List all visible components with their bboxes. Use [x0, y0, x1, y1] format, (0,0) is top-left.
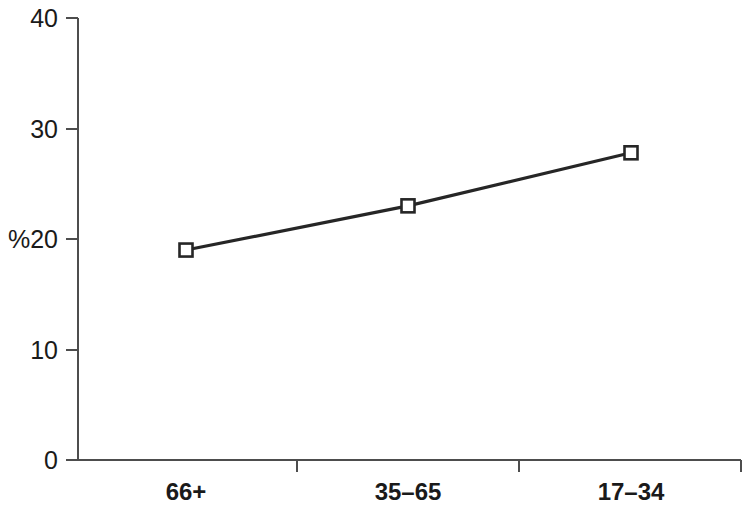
- data-point-marker: [402, 199, 415, 212]
- x-category-label-1: 35–65: [375, 478, 442, 505]
- y-tick-label-30: 30: [30, 115, 58, 143]
- data-point-marker: [180, 244, 193, 257]
- line-chart: 40 30 20 10 0 % 66+ 35–65 17–34: [0, 0, 753, 516]
- y-tick-label-20: 20: [30, 225, 58, 253]
- data-point-marker: [625, 146, 638, 159]
- y-tick-label-40: 40: [30, 4, 58, 32]
- chart-canvas: 40 30 20 10 0 % 66+ 35–65 17–34: [0, 0, 753, 516]
- y-axis-title: %: [8, 225, 30, 253]
- y-tick-label-0: 0: [44, 446, 58, 474]
- x-category-label-0: 66+: [166, 478, 207, 505]
- y-tick-label-10: 10: [30, 336, 58, 364]
- x-category-label-2: 17–34: [598, 478, 665, 505]
